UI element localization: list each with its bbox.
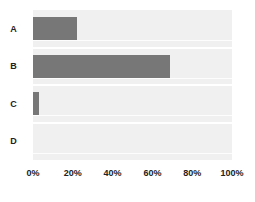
plot-area [33,10,232,160]
x-tick-label-0: 0% [13,168,53,178]
bar-a[interactable] [33,17,77,40]
bar-band [33,85,232,123]
x-tick-label-100: 100% [212,168,252,178]
bar-band [33,10,232,48]
x-tick-label-60: 60% [132,168,172,178]
x-tick-label-20: 20% [53,168,93,178]
bar-c[interactable] [33,92,39,115]
bar-band [33,48,232,86]
y-tick-label-a: A [0,24,27,34]
x-tick-label-80: 80% [172,168,212,178]
bar-chart: ABCD 0%20%40%60%80%100% [0,0,255,202]
y-tick-label-b: B [0,61,27,71]
y-tick-label-c: C [0,99,27,109]
y-tick-label-d: D [0,136,27,146]
bar-b[interactable] [33,55,170,78]
bar-band [33,123,232,161]
x-tick-label-40: 40% [93,168,133,178]
